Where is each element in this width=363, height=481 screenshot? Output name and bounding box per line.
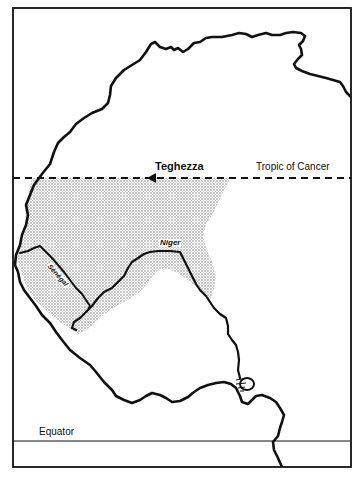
delta-loop	[240, 378, 254, 390]
shaded-region	[16, 178, 230, 334]
map-canvas	[0, 0, 363, 481]
label-equator: Equator	[39, 427, 74, 437]
label-river-niger: Niger	[159, 239, 181, 247]
label-tropic-of-cancer: Tropic of Cancer	[256, 162, 330, 172]
label-teghezza: Teghezza	[155, 161, 204, 172]
